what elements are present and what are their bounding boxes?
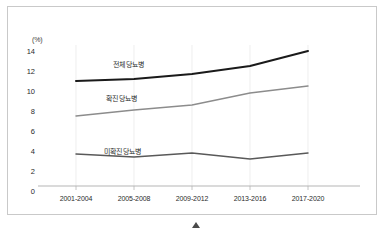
series-label-diagnosed-diabetes: 확진 당뇨병 xyxy=(106,93,137,103)
x-axis-ticks xyxy=(76,186,308,190)
chart-plot-svg xyxy=(8,7,378,216)
x-tick-label-4: 2017-2020 xyxy=(273,195,343,202)
series-label-total-diabetes: 전체 당뇨병 xyxy=(113,59,144,69)
chart-figure-frame: (%) 14 12 10 8 6 4 2 0 xyxy=(7,6,377,215)
gridlines-group xyxy=(76,45,308,186)
series-label-undiagnosed-diabetes: 미확진 당뇨병 xyxy=(104,146,141,156)
plot-area: (%) 14 12 10 8 6 4 2 0 xyxy=(8,7,378,216)
page-caret-marker xyxy=(192,222,200,228)
